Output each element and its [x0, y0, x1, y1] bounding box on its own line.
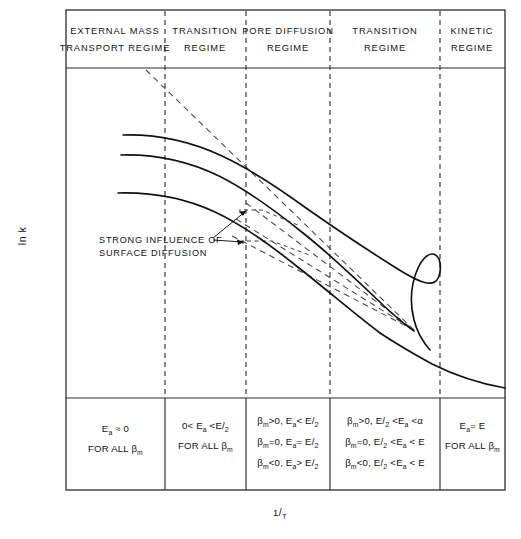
- leader-upper-arrowhead: [239, 211, 246, 216]
- cell-external-mass-transport: Ea ≈ 0FOR ALL βm: [88, 423, 143, 456]
- cell-kinetic-row-0: Ea= E: [460, 420, 486, 433]
- cell-transition-left: 0< Ea <E/2FOR ALL βm: [178, 420, 233, 453]
- x-axis-label-group: 1/T: [273, 506, 287, 521]
- regime-label-4-line1: KINETIC: [451, 26, 494, 36]
- regime-label-3-line1: TRANSITION: [352, 26, 417, 36]
- regime-label-4-line2: REGIME: [451, 43, 493, 53]
- cell-transition-right-row-1: βm=0, E/2 <Ea < E: [345, 436, 425, 450]
- cell-kinetic: Ea= EFOR ALL βm: [445, 420, 500, 453]
- cell-pore-diffusion-row-2: βm<0, Ea> E/2: [257, 457, 319, 471]
- cell-external-mass-transport-row-1: FOR ALL βm: [88, 443, 143, 456]
- regime-label-0-line1: EXTERNAL MASS: [70, 26, 159, 36]
- regime-header-labels: EXTERNAL MASS TRANSPORT REGIME TRANSITIO…: [60, 26, 494, 53]
- y-axis-label-group: ln k: [16, 227, 28, 246]
- kinetic-asymptote: [146, 70, 414, 330]
- cell-transition-right-row-0: βm>0, E/2 <Ea <α: [347, 415, 423, 429]
- regime-dividers: [165, 11, 440, 397]
- curve-lower: [118, 193, 380, 333]
- pore-asymptote-mid: [236, 219, 414, 330]
- y-axis-label: ln k: [16, 227, 28, 246]
- regime-label-1-line2: REGIME: [184, 43, 226, 53]
- x-axis-label: 1/T: [273, 506, 287, 521]
- surface-diffusion-annotation: STRONG INFLUENCE OF SURFACE DIFFUSION: [99, 211, 246, 258]
- bottom-table: Ea ≈ 0FOR ALL βm0< Ea <E/2FOR ALL βmβm>0…: [88, 415, 500, 471]
- regime-label-1-line1: TRANSITION: [172, 26, 237, 36]
- cell-pore-diffusion-row-1: βm=0, Ea= E/2: [257, 436, 319, 450]
- regime-label-3-line2: REGIME: [364, 43, 406, 53]
- x-axis-denominator: T: [282, 512, 287, 521]
- arrhenius-regime-diagram: EXTERNAL MASS TRANSPORT REGIME TRANSITIO…: [0, 0, 521, 539]
- regime-label-2-line1: PORE DIFFUSION: [242, 26, 334, 36]
- annotation-line-1: STRONG INFLUENCE OF: [99, 235, 223, 245]
- cell-kinetic-row-1: FOR ALL βm: [445, 440, 500, 453]
- curve-kinetic-tail: [380, 333, 505, 388]
- response-curves: [118, 135, 505, 388]
- cell-transition-right: βm>0, E/2 <Ea <αβm=0, E/2 <Ea < Eβm<0, E…: [345, 415, 425, 471]
- figure-canvas: EXTERNAL MASS TRANSPORT REGIME TRANSITIO…: [0, 0, 521, 539]
- cell-transition-right-row-2: βm<0, E/2 <Ea < E: [345, 457, 425, 471]
- cell-external-mass-transport-row-0: Ea ≈ 0: [102, 423, 129, 436]
- annotation-line-2: SURFACE DIFFUSION: [99, 248, 207, 258]
- cell-pore-diffusion-row-0: βm>0, Ea< E/2: [257, 415, 319, 429]
- leader-upper: [213, 211, 246, 238]
- regime-label-2-line2: REGIME: [267, 43, 309, 53]
- asymptote-lines: [146, 70, 414, 330]
- cell-pore-diffusion: βm>0, Ea< E/2βm=0, Ea= E/2βm<0, Ea> E/2: [257, 415, 319, 471]
- cell-transition-left-row-1: FOR ALL βm: [178, 440, 233, 453]
- regime-label-0-line2: TRANSPORT REGIME: [60, 43, 171, 53]
- cell-transition-left-row-0: 0< Ea <E/2: [182, 420, 229, 434]
